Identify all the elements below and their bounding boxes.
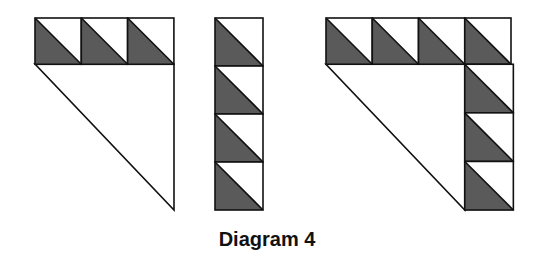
- large-right-triangle: [35, 64, 174, 210]
- half-square-triangle-tile: [128, 18, 174, 64]
- half-square-triangle-tile: [372, 18, 418, 64]
- half-square-triangle-tile: [326, 18, 372, 64]
- half-square-triangle-tile: [465, 161, 514, 210]
- figure-combined-l-shape: [326, 18, 513, 210]
- figure-row-of-three: [35, 18, 174, 210]
- large-right-triangle: [326, 64, 465, 210]
- half-square-triangle-tile: [465, 113, 514, 162]
- figure-column-of-four: [215, 18, 263, 210]
- diagram-canvas: [0, 0, 534, 263]
- half-square-triangle-tile: [465, 64, 514, 113]
- half-square-triangle-tile: [215, 18, 263, 66]
- diagram-caption: Diagram 4: [0, 228, 534, 251]
- half-square-triangle-tile: [215, 66, 263, 114]
- half-square-triangle-tile: [465, 18, 511, 64]
- half-square-triangle-tile: [215, 162, 263, 210]
- half-square-triangle-tile: [81, 18, 127, 64]
- half-square-triangle-tile: [419, 18, 465, 64]
- half-square-triangle-tile: [215, 114, 263, 162]
- half-square-triangle-tile: [35, 18, 81, 64]
